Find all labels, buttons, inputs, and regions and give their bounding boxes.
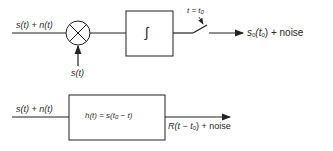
top-input-label: s(t) + n(t) xyxy=(16,20,53,30)
bottom-input-label: s(t) + n(t) xyxy=(16,104,53,114)
filter-label: h(t) = s(t0 − t) xyxy=(85,111,132,120)
switch-pointer-arrow xyxy=(199,17,203,24)
multiplier-input-label: s(t) xyxy=(71,68,84,78)
multiplier-icon xyxy=(66,21,90,45)
sampling-switch xyxy=(193,25,207,33)
bottom-output-label: R(t − t0) + noise xyxy=(168,121,231,131)
switch-label: t = t0 xyxy=(187,6,204,15)
integrator-symbol: ∫ xyxy=(145,24,149,40)
top-output-label: s0(t0) + noise xyxy=(247,27,303,38)
integrator-block xyxy=(126,11,173,56)
